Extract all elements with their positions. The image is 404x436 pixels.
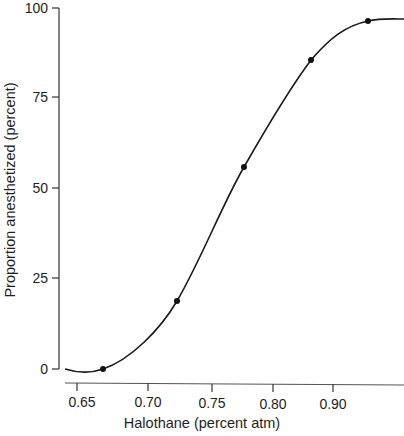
data-point: [100, 366, 106, 372]
fitted-curve: [65, 19, 404, 372]
data-point: [241, 164, 247, 170]
data-point: [308, 57, 314, 63]
svg-text:25: 25: [32, 270, 48, 286]
svg-text:0.70: 0.70: [134, 394, 161, 410]
svg-text:100: 100: [25, 0, 49, 16]
svg-text:75: 75: [32, 89, 48, 105]
svg-text:0.75: 0.75: [198, 395, 225, 411]
data-point: [174, 298, 180, 304]
x-axis-title: Halothane (percent atm): [124, 415, 280, 431]
x-axis-line: [65, 383, 404, 385]
svg-text:0.90: 0.90: [319, 396, 346, 412]
svg-text:0.65: 0.65: [68, 394, 95, 410]
data-point: [365, 18, 371, 24]
x-tick-labels: 0.65 0.70 0.75 0.80 0.90: [68, 394, 346, 412]
svg-text:0.80: 0.80: [259, 396, 286, 412]
y-axis-title: Proportion anesthetized (percent): [2, 82, 18, 297]
svg-text:50: 50: [32, 180, 48, 196]
data-points: [100, 18, 371, 372]
y-tick-labels: 100 75 50 25 0: [25, 0, 49, 377]
y-ticks: [52, 8, 59, 369]
svg-text:0: 0: [40, 361, 48, 377]
dose-response-chart: 100 75 50 25 0 Proportion anesthetized (…: [0, 0, 404, 436]
